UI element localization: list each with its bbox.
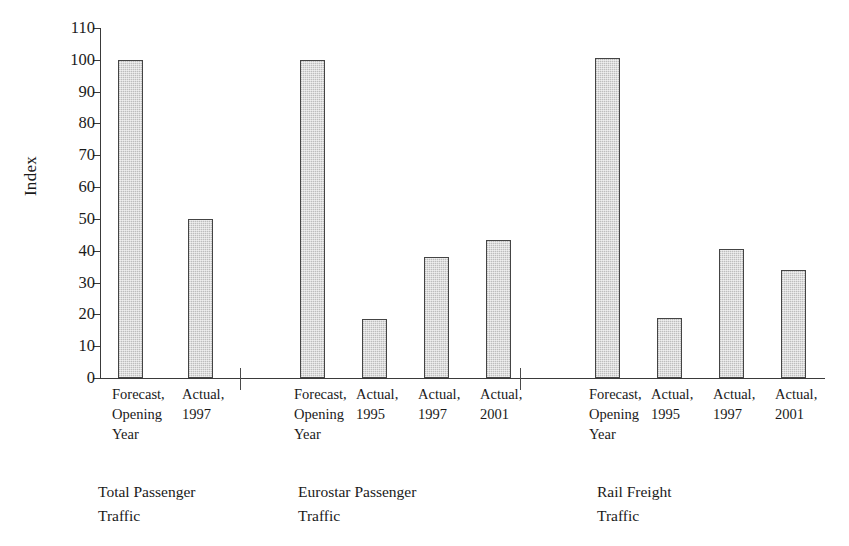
group-caption: Total PassengerTraffic <box>98 480 196 528</box>
bar-chart-figure: Index 0102030405060708090100110 Forecast… <box>0 0 849 546</box>
y-tick-label: 60 <box>79 179 96 196</box>
bar[interactable] <box>486 240 511 378</box>
x-tick-label-line: Year <box>112 424 198 444</box>
bar[interactable] <box>719 249 744 378</box>
y-tick-label: 20 <box>79 306 96 323</box>
x-tick-label-line: Actual, <box>182 384 268 404</box>
x-tick-label-line: 2001 <box>480 404 566 424</box>
x-tick-label-line: 1997 <box>182 404 268 424</box>
x-tick-label: Actual,2001 <box>775 384 849 424</box>
x-tick-label-line: Year <box>294 424 380 444</box>
y-tick-label: 30 <box>79 274 96 291</box>
y-tick-label: 70 <box>79 147 96 164</box>
group-caption: Eurostar PassengerTraffic <box>298 480 416 528</box>
bar[interactable] <box>595 58 620 378</box>
y-tick-label: 0 <box>87 370 95 387</box>
group-caption-line: Total Passenger <box>98 480 196 504</box>
y-tick-label: 110 <box>71 20 95 37</box>
y-tick-label: 40 <box>79 242 96 259</box>
group-caption-line: Eurostar Passenger <box>298 480 416 504</box>
group-caption-line: Traffic <box>298 504 416 528</box>
y-axis-title: Index <box>21 131 41 221</box>
x-tick-label-line: Actual, <box>480 384 566 404</box>
x-tick-label: Actual,2001 <box>480 384 566 424</box>
bar[interactable] <box>188 219 213 378</box>
bar[interactable] <box>424 257 449 378</box>
y-tick-label: 50 <box>79 211 96 228</box>
y-axis-line <box>100 28 101 379</box>
x-tick-label: Actual,1997 <box>182 384 268 424</box>
bar[interactable] <box>300 60 325 378</box>
y-tick-label: 100 <box>70 52 95 69</box>
bar[interactable] <box>657 318 682 378</box>
group-caption: Rail FreightTraffic <box>597 480 671 528</box>
group-caption-line: Traffic <box>98 504 196 528</box>
group-caption-line: Traffic <box>597 504 671 528</box>
bar[interactable] <box>362 319 387 378</box>
x-tick-label-line: Actual, <box>775 384 849 404</box>
group-caption-line: Rail Freight <box>597 480 671 504</box>
bar[interactable] <box>781 270 806 378</box>
x-tick-label-line: 2001 <box>775 404 849 424</box>
y-tick-label: 90 <box>79 83 96 100</box>
bar[interactable] <box>118 60 143 378</box>
x-axis-line <box>100 378 825 379</box>
x-tick-label-line: Year <box>589 424 675 444</box>
y-tick-label: 80 <box>79 115 96 132</box>
plot-area: 0102030405060708090100110 Forecast,Openi… <box>100 28 825 378</box>
y-tick-label: 10 <box>79 338 96 355</box>
